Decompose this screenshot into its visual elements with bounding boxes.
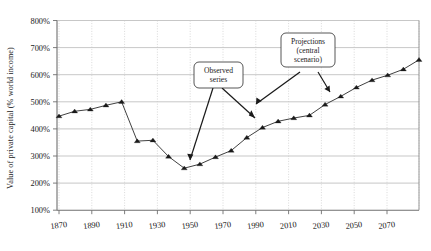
callout-projections-line3: scenario) [294, 55, 322, 64]
y-axis-label: Value of private capital (% world income… [6, 47, 15, 189]
y-tick-label: 200% [30, 179, 50, 188]
y-tick-label: 500% [30, 98, 50, 107]
callout-projections-line2: (central [296, 46, 319, 55]
callout-projections[interactable]: Projections (central scenario) [281, 33, 335, 67]
y-tick-label: 600% [30, 71, 50, 80]
y-tick-label: 400% [30, 125, 50, 134]
callout-observed-line2: series [210, 75, 227, 84]
chart-figure: 800% 700% 600% 500% 400% 300% 200% 100% … [0, 0, 431, 251]
chart-background [0, 0, 431, 251]
y-tick-label: 100% [30, 206, 50, 215]
callout-observed-series[interactable]: Observed series [194, 62, 243, 88]
callout-projections-line1: Projections [291, 37, 325, 46]
y-tick-label: 300% [30, 152, 50, 161]
capital-share-line-chart: 800% 700% 600% 500% 400% 300% 200% 100% … [0, 0, 431, 251]
y-tick-label: 800% [30, 17, 50, 26]
callout-observed-line1: Observed [204, 66, 233, 75]
y-tick-label: 700% [30, 44, 50, 53]
